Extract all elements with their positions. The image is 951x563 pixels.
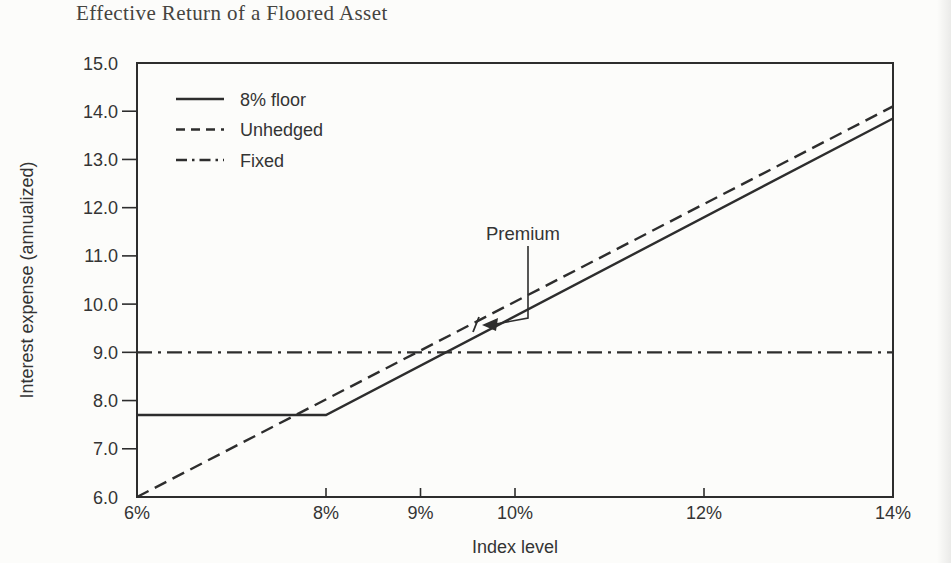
y-tick-label: 15.0 — [83, 54, 118, 74]
scanned-figure-page: Effective Return of a Floored Asset 6%8%… — [0, 0, 951, 563]
premium-annotation-label: Premium — [486, 223, 560, 244]
x-tick-label: 8% — [313, 503, 339, 523]
x-tick-label: 12% — [686, 503, 722, 523]
legend-label: 8% floor — [240, 90, 306, 110]
y-tick-label: 7.0 — [93, 439, 118, 459]
y-axis-ticks — [122, 111, 137, 449]
chart-legend: 8% floorUnhedgedFixed — [176, 90, 323, 171]
legend-label: Unhedged — [240, 120, 323, 140]
x-tick-label: 9% — [407, 503, 433, 523]
x-axis-title: Index level — [472, 537, 558, 557]
x-tick-label: 6% — [124, 503, 150, 523]
x-tick-label: 10% — [497, 503, 533, 523]
premium-gap-tick — [473, 317, 479, 332]
y-tick-label: 14.0 — [83, 102, 118, 122]
x-axis-ticks — [326, 488, 704, 497]
y-axis-tick-labels: 6.07.08.09.010.011.012.013.014.015.0 — [83, 54, 118, 508]
legend-label: Fixed — [240, 151, 284, 171]
line-chart: 6%8%9%10%12%14% 6.07.08.09.010.011.012.0… — [0, 0, 951, 563]
x-tick-label: 14% — [875, 503, 911, 523]
y-tick-label: 13.0 — [83, 150, 118, 170]
y-tick-label: 10.0 — [83, 295, 118, 315]
y-tick-label: 9.0 — [93, 343, 118, 363]
y-tick-label: 6.0 — [93, 488, 118, 508]
chart-title: Effective Return of a Floored Asset — [76, 1, 388, 26]
y-tick-label: 12.0 — [83, 198, 118, 218]
x-axis-tick-labels: 6%8%9%10%12%14% — [124, 503, 911, 523]
y-tick-label: 11.0 — [84, 246, 118, 266]
y-axis-title: Interest expense (annualized) — [17, 161, 37, 398]
y-tick-label: 8.0 — [93, 391, 118, 411]
